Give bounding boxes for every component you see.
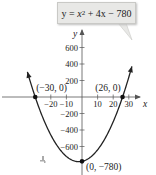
y-tick-label: −200 <box>60 109 78 119</box>
equation-callout: y = x2 + 4x − 780 <box>57 2 136 24</box>
y-tick-label: 600 <box>65 43 78 53</box>
callout-pointer <box>118 23 132 40</box>
y-tick-label: 200 <box>65 76 78 86</box>
x-tick-label: 30 <box>125 99 134 109</box>
equation-rest: + 4x − 780 <box>85 8 131 19</box>
curve-arrow-left-icon <box>27 72 32 78</box>
y-axis <box>80 29 85 175</box>
parabola-chart: x y −20−10102030 600400200−200−400−600 (… <box>0 0 156 175</box>
equation-prefix: y = <box>62 8 78 19</box>
key-points: (−30, 0)(26, 0)(0, −780) <box>33 83 125 173</box>
y-tick-label: −600 <box>60 142 78 152</box>
point-marker <box>33 95 38 100</box>
y-tick-label: −400 <box>60 125 78 135</box>
point-label: (−30, 0) <box>36 83 67 94</box>
decorative-mark <box>40 156 46 163</box>
point-label: (26, 0) <box>95 83 120 94</box>
point-label: (0, −780) <box>86 162 121 173</box>
y-axis-label: y <box>72 29 78 39</box>
x-tick-label: 20 <box>109 99 118 109</box>
point-marker <box>120 95 125 100</box>
x-tick-label: −10 <box>60 99 73 109</box>
x-tick-label: −20 <box>44 99 57 109</box>
point-marker <box>80 159 85 164</box>
y-tick-label: 400 <box>65 59 78 69</box>
x-tick-label: 10 <box>93 99 102 109</box>
x-axis-label: x <box>142 99 148 109</box>
